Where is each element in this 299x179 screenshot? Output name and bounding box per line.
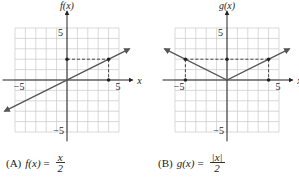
marked-point — [225, 57, 229, 61]
y-tick-5: 5 — [58, 27, 63, 38]
y-tick-5: 5 — [218, 27, 223, 38]
x-axis-label: x — [296, 75, 299, 86]
fraction-denominator: 2 — [57, 163, 63, 173]
x-tick-5: 5 — [115, 81, 120, 92]
marked-point — [184, 57, 188, 61]
caption-equals: = — [44, 157, 50, 169]
marked-point — [267, 57, 271, 61]
y-tick-neg5: −5 — [53, 125, 64, 136]
caption-b: (B) g(x) = |x| 2 — [158, 152, 225, 173]
marked-point — [107, 78, 111, 82]
caption-a: (A) f(x) = x 2 — [6, 152, 65, 173]
marked-point — [267, 78, 271, 82]
caption-fraction: x 2 — [56, 152, 65, 173]
graph-panel-b: g(x)x−555−5 (B) g(x) = |x| 2 — [150, 0, 299, 179]
x-axis-label: x — [136, 75, 142, 86]
y-axis-label: g(x) — [219, 0, 236, 12]
caption-label: (B) — [158, 157, 173, 169]
x-tick-neg5: −5 — [174, 81, 185, 92]
graph-f: f(x)x−555−5 — [0, 0, 150, 150]
caption-function: f(x) — [25, 157, 40, 169]
fraction-denominator: 2 — [214, 163, 220, 173]
y-tick-neg5: −5 — [213, 125, 224, 136]
graph-panel-a: f(x)x−555−5 (A) f(x) = x 2 — [0, 0, 150, 179]
y-axis-label: f(x) — [60, 0, 75, 12]
caption-label: (A) — [6, 157, 21, 169]
marked-point — [65, 57, 69, 61]
x-tick-neg5: −5 — [14, 81, 25, 92]
x-tick-5: 5 — [275, 81, 280, 92]
caption-function: g(x) — [177, 157, 195, 169]
caption-equals: = — [197, 157, 203, 169]
graph-g: g(x)x−555−5 — [150, 0, 299, 150]
marked-point — [107, 57, 111, 61]
caption-fraction: |x| 2 — [210, 152, 225, 173]
